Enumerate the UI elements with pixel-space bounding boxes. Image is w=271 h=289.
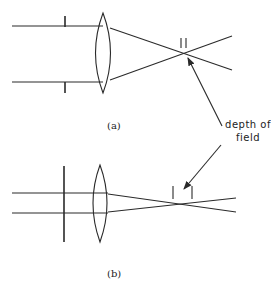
lens-b [93, 165, 107, 242]
annotation-line-1: depth of [224, 118, 271, 131]
panel-b [12, 165, 236, 242]
panel-a-label: (a) [107, 120, 121, 131]
lens-a [96, 13, 111, 93]
arrow-to-a [188, 58, 222, 126]
panel-b-label: (b) [107, 268, 121, 279]
arrow-to-b [184, 145, 221, 189]
depth-of-field-annotation: depth of field [224, 118, 271, 144]
annotation-line-2: field [224, 131, 271, 144]
optics-drawing [0, 0, 271, 289]
depth-of-field-diagram: (a) (b) depth of field [0, 0, 271, 289]
